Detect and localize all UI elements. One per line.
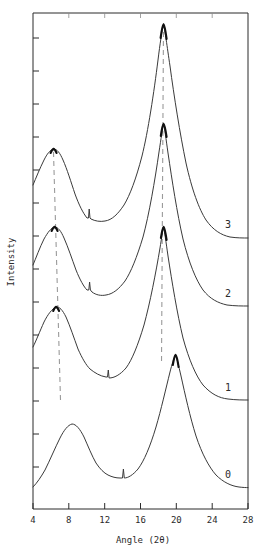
x-tick-label: 28: [243, 515, 254, 525]
x-tick-label: 24: [207, 515, 218, 525]
x-tick-label: 12: [99, 515, 110, 525]
plot-frame: [33, 13, 248, 509]
y-axis-title: Intensity: [6, 237, 16, 286]
x-tick-label: 16: [135, 515, 146, 525]
x-tick-label: 20: [171, 515, 182, 525]
curve-label-0: 0: [225, 469, 231, 480]
x-tick-label: 4: [30, 515, 35, 525]
x-axis-title: Angle (2θ): [116, 535, 170, 545]
curve-label-1: 1: [225, 382, 231, 393]
x-tick-labels: 4 8 12 16 20 24 28: [30, 515, 253, 525]
curve-label-3: 3: [225, 219, 231, 230]
x-tick-label: 8: [66, 515, 71, 525]
curve-label-2: 2: [225, 288, 231, 299]
xrd-figure: 4 8 12 16 20 24 28 Angle (2θ) Intensity: [0, 0, 270, 553]
chart-svg: 4 8 12 16 20 24 28 Angle (2θ) Intensity: [0, 0, 270, 553]
plot-background: [33, 13, 248, 509]
